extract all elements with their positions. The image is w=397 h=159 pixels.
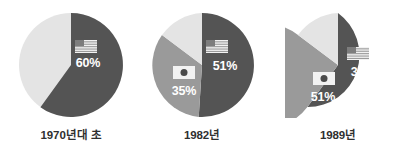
us-flag-icon [206, 40, 228, 53]
japan-flag-icon [173, 66, 195, 79]
pie-caption-1989: 1989년 [272, 126, 397, 142]
pie-chart-1989: 35% 51% 1989년 [272, 0, 397, 159]
japan-flag-icon [313, 72, 335, 85]
pie-slice-label-us-1970s: 60% [68, 56, 108, 70]
pie-wrap-1989: 35% 51% [285, 12, 391, 118]
pie-chart-figure: 60% 1970년대 초 [0, 0, 397, 159]
pie-caption-1970s: 1970년대 초 [5, 126, 137, 142]
pie-slice-label-japan-1982: 35% [164, 84, 204, 98]
pie-wrap-1982: 51% 35% [149, 12, 255, 118]
pie-slice-label-japan-1989: 51% [303, 90, 343, 104]
pie-chart-1982: 51% 35% 1982년 [136, 0, 268, 159]
pie-slice-label-us-1982: 51% [205, 59, 245, 73]
us-flag-icon [75, 40, 97, 53]
us-flag-icon [347, 47, 369, 60]
pie-wrap-1970s: 60% [18, 12, 124, 118]
pie-caption-1982: 1982년 [136, 126, 268, 142]
pie-chart-1970s: 60% 1970년대 초 [5, 0, 137, 159]
pie-slice-label-us-1989: 35% [343, 65, 383, 79]
